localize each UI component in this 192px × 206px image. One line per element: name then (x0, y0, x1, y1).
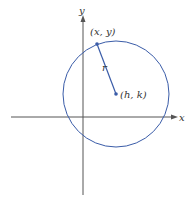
x-axis-arrow-icon (171, 115, 178, 120)
center-label: (h, k) (120, 89, 147, 100)
circle-diagram: x y (x, y) r (h, k) (0, 0, 192, 206)
x-axis-label: x (179, 112, 185, 123)
center-point (114, 92, 118, 96)
y-axis-arrow-icon (81, 15, 86, 22)
point-label: (x, y) (90, 26, 116, 37)
point-xy (95, 42, 99, 46)
y-axis-label: y (78, 5, 85, 16)
